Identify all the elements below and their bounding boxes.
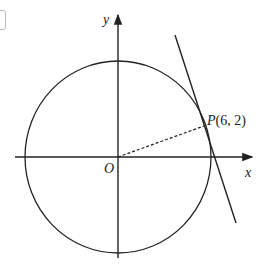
y-axis-label: y: [101, 12, 110, 27]
point-p-label: P(6, 2): [206, 113, 246, 129]
diagram-canvas: y x O P(6, 2): [0, 0, 268, 270]
x-axis-label: x: [244, 165, 252, 180]
tangent-line: [175, 35, 236, 223]
origin-label: O: [104, 161, 114, 176]
radius-op-dashed: [118, 126, 204, 157]
